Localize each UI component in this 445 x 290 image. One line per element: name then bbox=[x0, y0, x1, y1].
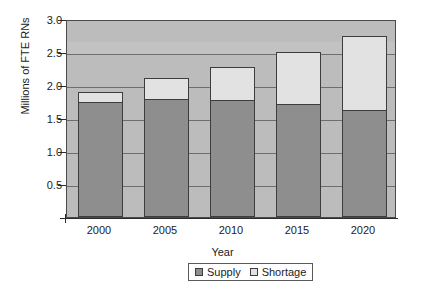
bar-group-2015 bbox=[276, 20, 321, 217]
bar-group-2005 bbox=[144, 20, 189, 217]
x-axis-tick-label-2005: 2005 bbox=[132, 224, 198, 236]
y-axis-tick-label: 3.0 bbox=[47, 15, 62, 26]
bar-segment-supply-2000 bbox=[78, 102, 123, 218]
rn-supply-shortage-chart: Millions of FTE RNs 3.02.52.01.51.00.5 2… bbox=[0, 0, 445, 290]
y-axis-tick-label: 1.0 bbox=[47, 147, 62, 158]
bar-group-2000 bbox=[78, 20, 123, 217]
bar-segment-shortage-2015 bbox=[276, 52, 321, 105]
y-axis-tick-label: 0.5 bbox=[47, 180, 62, 191]
bar-segment-shortage-2000 bbox=[78, 92, 123, 103]
y-axis-tick-label: 2.5 bbox=[47, 48, 62, 59]
legend-label: Shortage bbox=[262, 266, 307, 278]
x-axis-tick-label-2015: 2015 bbox=[264, 224, 330, 236]
legend-entry-shortage[interactable]: Shortage bbox=[250, 266, 307, 278]
y-axis-tick-label: 1.5 bbox=[47, 114, 62, 125]
x-axis-origin-tick bbox=[65, 214, 66, 223]
legend-swatch-icon bbox=[250, 268, 258, 276]
bar-segment-shortage-2020 bbox=[342, 36, 387, 111]
bar-segment-supply-2020 bbox=[342, 110, 387, 217]
x-axis-tick-label-2000: 2000 bbox=[66, 224, 132, 236]
legend-label: Supply bbox=[207, 266, 241, 278]
y-axis-tick-label: 2.0 bbox=[47, 81, 62, 92]
bar-segment-shortage-2005 bbox=[144, 78, 189, 99]
chart-legend: SupplyShortage bbox=[188, 263, 313, 281]
bar-group-2010 bbox=[210, 20, 255, 217]
bar-segment-supply-2005 bbox=[144, 99, 189, 217]
bar-segment-supply-2010 bbox=[210, 100, 255, 217]
bar-segment-shortage-2010 bbox=[210, 67, 255, 101]
x-axis-tick-label-2020: 2020 bbox=[330, 224, 396, 236]
bar-group-2020 bbox=[342, 20, 387, 217]
legend-swatch-icon bbox=[195, 268, 203, 276]
legend-entry-supply[interactable]: Supply bbox=[195, 266, 241, 278]
plot-area bbox=[66, 20, 396, 218]
x-axis-tick-label-2010: 2010 bbox=[198, 224, 264, 236]
bar-segment-supply-2015 bbox=[276, 104, 321, 217]
y-axis-title: Millions of FTE RNs bbox=[16, 0, 34, 151]
x-axis-title: Year bbox=[0, 246, 445, 258]
x-axis-line bbox=[60, 218, 398, 219]
